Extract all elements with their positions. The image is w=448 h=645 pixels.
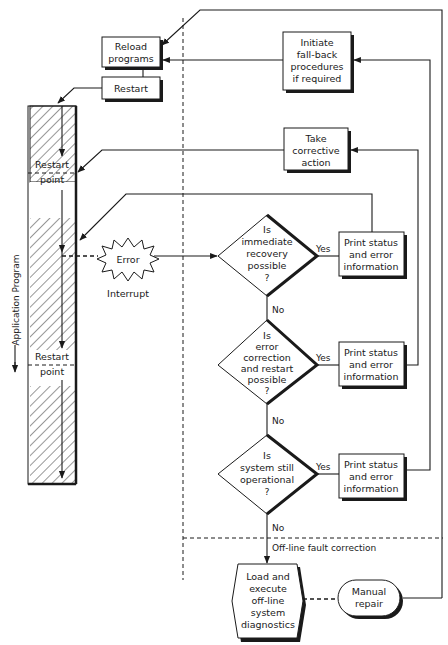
svg-text:Is: Is xyxy=(263,450,271,461)
svg-text:Take: Take xyxy=(304,133,326,144)
application-program-bar: Restart point Restart point xyxy=(28,106,76,484)
restart-box: Restart xyxy=(102,77,163,102)
svg-text:recovery: recovery xyxy=(246,248,288,259)
svg-text:corrective: corrective xyxy=(292,145,340,156)
svg-text:and error: and error xyxy=(349,471,393,482)
svg-text:execute: execute xyxy=(249,583,287,594)
svg-text:Print status: Print status xyxy=(344,347,398,358)
svg-text:correction: correction xyxy=(243,352,291,363)
svg-text:possible: possible xyxy=(248,260,287,271)
error-label: Error xyxy=(116,254,139,265)
decision-1-yes: Yes xyxy=(315,244,331,254)
print-status-box-1: Print status and error information xyxy=(339,232,407,279)
restart-point-1-label: Restart xyxy=(35,159,69,170)
decision-system-operational: Is system still operational ? xyxy=(218,435,317,514)
svg-text:Is: Is xyxy=(263,224,271,235)
decision-2-no: No xyxy=(272,416,285,426)
decision-1-no: No xyxy=(272,305,285,315)
reload-programs-box: Reload programs xyxy=(102,37,163,70)
decision-2-yes: Yes xyxy=(315,353,331,363)
manual-repair-box: Manual repair xyxy=(338,580,403,619)
fault-recovery-flowchart: Off-line fault correction Restart point … xyxy=(0,0,448,645)
svg-text:and restart: and restart xyxy=(241,363,294,374)
svg-text:operational: operational xyxy=(240,474,294,485)
error-interrupt: Error Interrupt xyxy=(97,238,159,299)
decision-3-yes: Yes xyxy=(315,462,331,472)
svg-text:?: ? xyxy=(264,385,269,396)
svg-text:off-line: off-line xyxy=(252,595,285,606)
svg-text:?: ? xyxy=(264,486,269,497)
decision-3-no: No xyxy=(272,523,285,533)
svg-text:information: information xyxy=(344,483,399,494)
svg-text:information: information xyxy=(344,371,399,382)
svg-text:system: system xyxy=(251,607,285,618)
svg-text:repair: repair xyxy=(355,598,383,609)
svg-text:fall-back: fall-back xyxy=(297,49,338,60)
svg-text:and error: and error xyxy=(349,249,393,260)
svg-text:and error: and error xyxy=(349,359,393,370)
restart-point-2-label: Restart xyxy=(35,351,69,362)
svg-text:Load and: Load and xyxy=(246,571,290,582)
decision-error-correction: Is error correction and restart possible… xyxy=(218,320,317,404)
svg-text:possible: possible xyxy=(248,374,287,385)
decision-immediate-recovery: Is immediate recovery possible ? xyxy=(218,215,317,296)
offline-diagnostics-box: Load and execute off-line system diagnos… xyxy=(232,564,306,642)
svg-text:Initiate: Initiate xyxy=(300,37,333,48)
manual-repair-return-line xyxy=(162,10,442,598)
svg-text:Reload: Reload xyxy=(115,41,147,52)
offline-label: Off-line fault correction xyxy=(272,543,376,553)
svg-text:Restart: Restart xyxy=(114,83,148,94)
svg-text:system still: system still xyxy=(240,462,294,473)
interrupt-label: Interrupt xyxy=(107,288,149,299)
initiate-fallback-box: Initiate fall-back procedures if require… xyxy=(283,32,354,93)
svg-text:if required: if required xyxy=(293,73,342,84)
svg-text:Is: Is xyxy=(263,330,271,341)
svg-text:action: action xyxy=(301,157,330,168)
side-label: Application Program xyxy=(11,254,21,372)
svg-text:error: error xyxy=(256,341,279,352)
restart-point-1-label-2: point xyxy=(40,174,65,185)
svg-text:Print status: Print status xyxy=(344,237,398,248)
svg-text:diagnostics: diagnostics xyxy=(241,619,295,630)
print-status-box-2: Print status and error information xyxy=(339,342,407,389)
restart-point-2-label-2: point xyxy=(40,366,65,377)
svg-text:procedures: procedures xyxy=(290,61,343,72)
application-program-label: Application Program xyxy=(11,254,21,345)
svg-text:programs: programs xyxy=(108,53,154,64)
print-status-box-3: Print status and error information xyxy=(339,454,407,501)
svg-text:Manual: Manual xyxy=(352,586,387,597)
svg-text:?: ? xyxy=(264,272,269,283)
svg-text:Print status: Print status xyxy=(344,459,398,470)
svg-text:immediate: immediate xyxy=(241,236,292,247)
svg-text:information: information xyxy=(344,261,399,272)
take-corrective-action-box: Take corrective action xyxy=(284,128,351,173)
